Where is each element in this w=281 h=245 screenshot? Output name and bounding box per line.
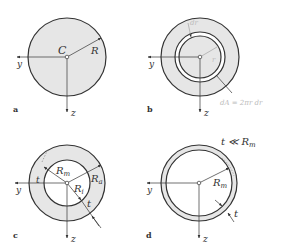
z-axis-label: z xyxy=(203,108,209,118)
panel-d: t ≪ Rm Rm t y z d xyxy=(146,136,256,244)
thin-wall-condition: t ≪ Rm xyxy=(221,136,256,149)
z-axis-label: z xyxy=(70,234,76,244)
y-axis-label: y xyxy=(146,185,153,195)
panel-label-d: d xyxy=(146,230,152,240)
panel-label-a: a xyxy=(13,104,18,114)
radius-label: R xyxy=(90,45,99,56)
panel-a: C R y z a xyxy=(13,18,106,118)
origin-point xyxy=(197,181,201,185)
panel-label-c: c xyxy=(13,230,18,240)
origin-point xyxy=(65,181,69,185)
y-axis-label: y xyxy=(16,59,23,69)
panel-b: dr r dA = 2πr dr y z b xyxy=(147,18,263,118)
t-label-left: t xyxy=(36,175,40,185)
z-axis-label: z xyxy=(70,108,76,118)
t-arrow xyxy=(92,216,101,228)
t-label: t xyxy=(234,208,239,219)
dr-label: dr xyxy=(190,19,198,27)
dA-formula: dA = 2πr dr xyxy=(220,99,263,107)
panel-label-b: b xyxy=(147,104,153,114)
y-axis-label: y xyxy=(15,185,22,195)
y-axis-label: y xyxy=(148,59,155,69)
centroid-label: C xyxy=(58,44,67,57)
cross-section-diagram: C R y z a dr r dA = 2πr dr y z b xyxy=(0,0,281,245)
origin-point xyxy=(198,55,202,59)
panel-c: Rm Ra Ri t t y z c xyxy=(13,145,105,244)
z-axis-label: z xyxy=(202,234,208,244)
